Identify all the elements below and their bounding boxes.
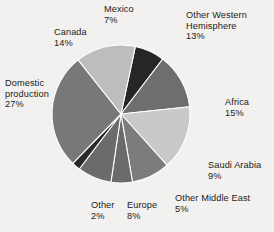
slice-label-saudi-arabia-name: Saudi Arabia	[208, 160, 261, 171]
slice-label-other-value: 2%	[91, 211, 114, 222]
slice-label-domestic-production-name-line2: production	[5, 89, 49, 100]
slice-label-canada: Canada 14%	[54, 27, 87, 48]
slice-label-other-western-hemisphere-value: 13%	[186, 31, 247, 42]
slice-label-domestic-production: Domestic production 27%	[5, 78, 49, 110]
slice-label-canada-name: Canada	[54, 27, 87, 38]
slice-label-canada-value: 14%	[54, 38, 87, 49]
slice-label-mexico: Mexico 7%	[104, 4, 134, 25]
slice-label-other-western-hemisphere-name-line2: Hemisphere	[186, 21, 247, 32]
slice-label-saudi-arabia: Saudi Arabia 9%	[208, 160, 261, 181]
pie-chart: Mexico 7% Other Western Hemisphere 13% C…	[0, 0, 274, 232]
slice-label-saudi-arabia-value: 9%	[208, 171, 261, 182]
slice-label-other-western-hemisphere-name-line1: Other Western	[186, 10, 247, 21]
slice-label-other-western-hemisphere: Other Western Hemisphere 13%	[186, 10, 247, 42]
slice-label-europe-value: 8%	[127, 211, 157, 222]
slice-label-mexico-name: Mexico	[104, 4, 134, 15]
slice-label-other-middle-east-value: 5%	[175, 204, 250, 215]
slice-label-africa-value: 15%	[225, 108, 249, 119]
slice-label-europe-name: Europe	[127, 200, 157, 211]
slice-label-mexico-value: 7%	[104, 15, 134, 26]
slice-label-domestic-production-value: 27%	[5, 99, 49, 110]
slice-label-other: Other 2%	[91, 200, 114, 221]
slice-label-other-middle-east: Other Middle East 5%	[175, 193, 250, 214]
slice-label-domestic-production-name-line1: Domestic	[5, 78, 49, 89]
slice-label-africa: Africa 15%	[225, 97, 249, 118]
slice-label-europe: Europe 8%	[127, 200, 157, 221]
slice-label-other-middle-east-name: Other Middle East	[175, 193, 250, 204]
slice-label-africa-name: Africa	[225, 97, 249, 108]
pie-slice-group	[52, 45, 190, 183]
slice-label-other-name: Other	[91, 200, 114, 211]
